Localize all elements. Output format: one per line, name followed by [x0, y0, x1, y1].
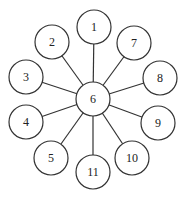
hub-node-6: 6: [76, 82, 110, 116]
node-2: 2: [35, 25, 69, 59]
star-graph-diagram: 1273849510116: [0, 0, 188, 202]
node-label: 1: [91, 20, 97, 34]
nodes: 1273849510116: [9, 10, 177, 189]
node-label: 11: [87, 165, 99, 179]
node-label: 7: [131, 36, 137, 50]
node-7: 7: [117, 26, 151, 60]
node-11: 11: [76, 155, 110, 189]
node-10: 10: [115, 141, 149, 175]
node-label: 3: [23, 70, 29, 84]
node-4: 4: [9, 105, 43, 139]
node-label: 6: [90, 92, 96, 106]
node-label: 10: [126, 151, 138, 165]
node-label: 8: [157, 71, 163, 85]
node-5: 5: [34, 141, 68, 175]
node-label: 4: [23, 115, 29, 129]
node-label: 5: [48, 151, 54, 165]
node-label: 2: [49, 35, 55, 49]
node-1: 1: [77, 10, 111, 44]
node-8: 8: [143, 61, 177, 95]
node-3: 3: [9, 60, 43, 94]
node-9: 9: [141, 106, 175, 140]
node-label: 9: [155, 116, 161, 130]
